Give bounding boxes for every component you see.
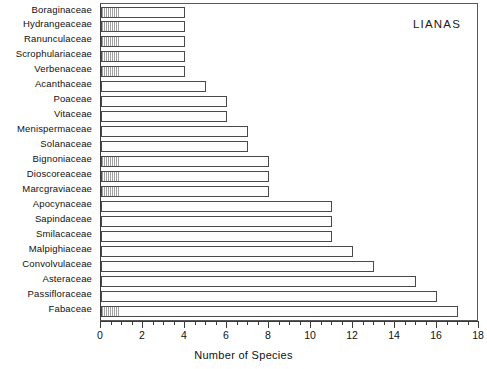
category-label: Solanaceae xyxy=(40,139,92,149)
x-tick-minor xyxy=(300,321,301,325)
category-label: Vitaceae xyxy=(54,109,92,119)
category-label: Hydrangeaceae xyxy=(23,19,92,29)
category-label: Boraginaceae xyxy=(32,5,92,15)
category-label: Menispermaceae xyxy=(17,124,92,134)
x-tick-minor xyxy=(405,321,406,325)
x-tick-minor xyxy=(247,321,248,325)
x-tick-label: 12 xyxy=(346,329,358,341)
x-tick-minor xyxy=(384,321,385,325)
bar xyxy=(101,141,248,152)
x-tick-major xyxy=(226,321,227,328)
x-tick-major xyxy=(436,321,437,328)
x-tick-minor xyxy=(237,321,238,325)
bar xyxy=(101,246,353,257)
bar xyxy=(101,261,374,272)
bar xyxy=(101,171,269,182)
x-tick-minor xyxy=(373,321,374,325)
x-tick-minor xyxy=(331,321,332,325)
x-tick-minor xyxy=(468,321,469,325)
x-tick-label: 6 xyxy=(223,329,229,341)
x-tick-minor xyxy=(205,321,206,325)
x-tick-minor xyxy=(132,321,133,325)
bar xyxy=(101,126,248,137)
x-tick-label: 8 xyxy=(265,329,271,341)
x-tick-minor xyxy=(258,321,259,325)
chart-annotation-lianas: LIANAS xyxy=(413,18,461,30)
bar xyxy=(101,216,332,227)
x-tick-major xyxy=(100,321,101,328)
x-tick-minor xyxy=(342,321,343,325)
bar xyxy=(101,21,185,32)
category-label: Acanthaceae xyxy=(35,79,92,89)
x-tick-major xyxy=(352,321,353,328)
x-tick-label: 2 xyxy=(139,329,145,341)
bar xyxy=(101,276,416,287)
category-label: Ranunculaceae xyxy=(24,34,92,44)
x-tick-label: 4 xyxy=(181,329,187,341)
category-label: Sapindaceae xyxy=(35,214,92,224)
x-tick-label: 18 xyxy=(472,329,484,341)
category-label: Malpighiaceae xyxy=(29,244,92,254)
category-label: Bignoniaceae xyxy=(33,154,92,164)
bar xyxy=(101,306,458,317)
x-tick-minor xyxy=(447,321,448,325)
x-tick-major xyxy=(184,321,185,328)
bar xyxy=(101,231,332,242)
x-tick-minor xyxy=(111,321,112,325)
x-tick-minor xyxy=(195,321,196,325)
bar xyxy=(101,291,437,302)
x-tick-label: 10 xyxy=(304,329,316,341)
x-tick-major xyxy=(268,321,269,328)
x-tick-minor xyxy=(163,321,164,325)
bar xyxy=(101,66,185,77)
x-tick-minor xyxy=(121,321,122,325)
plot-area: LIANAS xyxy=(100,3,478,321)
x-tick-major xyxy=(394,321,395,328)
x-tick-label: 16 xyxy=(430,329,442,341)
x-tick-minor xyxy=(457,321,458,325)
bar xyxy=(101,7,185,18)
x-tick-label: 14 xyxy=(388,329,400,341)
x-tick-minor xyxy=(415,321,416,325)
x-tick-minor xyxy=(153,321,154,325)
category-label: Convolvulaceae xyxy=(22,259,92,269)
bar xyxy=(101,156,269,167)
x-tick-major xyxy=(310,321,311,328)
category-label: Verbenaceae xyxy=(34,64,92,74)
bar xyxy=(101,96,227,107)
x-tick-minor xyxy=(279,321,280,325)
bar xyxy=(101,51,185,62)
x-tick-major xyxy=(478,321,479,328)
bar xyxy=(101,36,185,47)
category-label: Marcgraviaceae xyxy=(22,184,92,194)
x-tick-label: 0 xyxy=(97,329,103,341)
category-label: Smilacaceae xyxy=(36,229,92,239)
category-axis-labels: BoraginaceaeHydrangeaceaeRanunculaceaeSc… xyxy=(0,0,96,327)
x-tick-minor xyxy=(174,321,175,325)
x-tick-minor xyxy=(426,321,427,325)
category-label: Fabaceae xyxy=(49,304,92,314)
category-label: Dioscoreaceae xyxy=(27,169,92,179)
category-label: Apocynaceae xyxy=(33,199,92,209)
bar xyxy=(101,111,227,122)
x-axis-title: Number of Species xyxy=(0,349,487,361)
lianas-species-bar-chart: BoraginaceaeHydrangeaceaeRanunculaceaeSc… xyxy=(0,0,487,369)
x-tick-major xyxy=(142,321,143,328)
bar xyxy=(101,81,206,92)
bar xyxy=(101,186,269,197)
x-tick-minor xyxy=(363,321,364,325)
x-tick-minor xyxy=(321,321,322,325)
x-tick-minor xyxy=(216,321,217,325)
category-label: Poaceae xyxy=(53,94,92,104)
x-tick-minor xyxy=(289,321,290,325)
category-label: Asteraceae xyxy=(42,274,92,284)
category-label: Passifloraceae xyxy=(28,289,92,299)
bar xyxy=(101,201,332,212)
category-label: Scrophulariaceae xyxy=(16,49,92,59)
